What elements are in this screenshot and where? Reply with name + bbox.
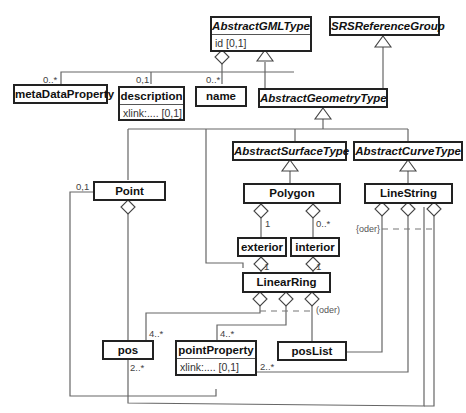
class-pos[interactable]: pos — [102, 340, 154, 360]
multiplicity-label: 4..* — [149, 328, 163, 339]
class-point-property[interactable]: pointProperty xlink:.... [0,1] — [175, 340, 257, 376]
multiplicity-label: 1 — [264, 261, 269, 272]
class-name[interactable]: name — [195, 86, 247, 107]
multiplicity-label: 1 — [316, 261, 321, 272]
generalization-triangle-icon — [400, 160, 416, 171]
class-name: SRSReferenceGroup — [331, 18, 438, 34]
class-meta-data-property[interactable]: metaDataProperty — [13, 84, 108, 104]
class-polygon[interactable]: Polygon — [243, 183, 341, 204]
multiplicity-label: 2..* — [130, 362, 144, 373]
class-name: AbstractSurfaceType — [234, 143, 345, 159]
class-name: AbstractGeometryType — [260, 90, 386, 106]
class-name: pos — [104, 342, 152, 358]
class-name: Point — [95, 183, 164, 199]
aggregation-diamond-icon — [401, 202, 415, 216]
constraint-note: {oder} — [356, 224, 380, 234]
aggregation-diamond-icon — [254, 204, 268, 218]
class-name: interior — [292, 239, 338, 255]
class-abstract-surface-type[interactable]: AbstractSurfaceType — [232, 141, 347, 161]
class-name: LineString — [366, 185, 451, 201]
class-name: Polygon — [245, 185, 339, 201]
multiplicity-label: 0..* — [206, 74, 220, 85]
class-attribute: id [0,1] — [212, 34, 310, 51]
aggregation-diamond-icon — [279, 292, 293, 306]
aggregation-diamond-icon — [427, 202, 441, 216]
multiplicity-label: 1 — [265, 218, 270, 229]
class-attribute: xlink:.... [0,1] — [177, 358, 255, 375]
class-name: metaDataProperty — [15, 86, 106, 102]
generalization-triangle-icon — [375, 36, 391, 47]
class-point[interactable]: Point — [93, 181, 166, 201]
gml-aggregation-lines — [61, 62, 294, 84]
linestring-poslist-line — [346, 216, 382, 352]
class-name: exterior — [239, 239, 285, 255]
class-name-label: name — [197, 88, 245, 104]
class-line-string[interactable]: LineString — [364, 183, 453, 204]
aggregation-diamond-icon — [375, 202, 389, 216]
class-name: pointProperty — [177, 342, 255, 358]
class-abstract-gml-type[interactable]: AbstractGMLType id [0,1] — [210, 16, 312, 52]
aggregation-diamond-icon — [121, 200, 135, 214]
linestring-pos-line — [424, 216, 434, 406]
constraint-note: (oder) — [316, 305, 340, 315]
class-interior[interactable]: interior — [290, 237, 340, 257]
class-name: posList — [279, 343, 345, 359]
class-abstract-curve-type[interactable]: AbstractCurveType — [353, 141, 463, 161]
class-attribute: xlink:.... [0,1] — [120, 104, 183, 121]
class-name: LinearRing — [244, 274, 329, 290]
aggregation-diamond-icon — [253, 292, 267, 306]
aggregation-diamond-icon — [306, 204, 320, 218]
class-linear-ring[interactable]: LinearRing — [242, 272, 331, 293]
uml-diagram: AbstractGMLType id [0,1] SRSReferenceGro… — [0, 0, 466, 413]
multiplicity-label: 0..* — [316, 218, 330, 229]
multiplicity-label: 2..* — [260, 361, 274, 372]
class-pos-list[interactable]: posList — [277, 341, 347, 361]
class-srs-reference-group[interactable]: SRSReferenceGroup — [329, 16, 440, 36]
multiplicity-label: 0,1 — [76, 181, 89, 192]
class-name: AbstractGMLType — [212, 18, 310, 34]
class-name: AbstractCurveType — [355, 143, 461, 159]
multiplicity-label: 0..* — [43, 74, 57, 85]
generalization-triangle-icon — [282, 160, 298, 171]
class-abstract-geometry-type[interactable]: AbstractGeometryType — [258, 88, 388, 108]
multiplicity-label: 4..* — [220, 328, 234, 339]
class-exterior[interactable]: exterior — [237, 237, 287, 257]
aggregation-diamond-icon — [215, 50, 229, 64]
multiplicity-label: 0,1 — [136, 74, 149, 85]
generalization-triangle-icon — [315, 108, 331, 119]
class-name: description — [120, 88, 183, 104]
aggregation-diamond-icon — [305, 292, 319, 306]
class-description[interactable]: description xlink:.... [0,1] — [118, 86, 185, 121]
